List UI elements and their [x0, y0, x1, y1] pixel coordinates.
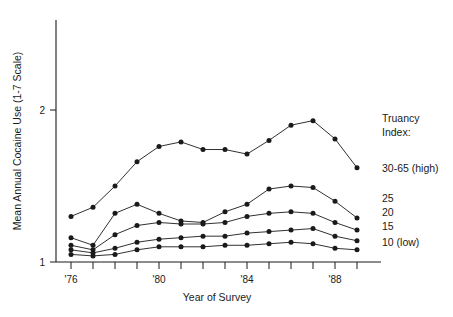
y-axis-tick-labels: 12 [39, 105, 45, 268]
data-point [245, 214, 250, 219]
data-point [223, 220, 228, 225]
data-point [179, 244, 184, 249]
data-point [157, 144, 162, 149]
data-point [245, 243, 250, 248]
legend-entry-15: 15 [382, 220, 394, 232]
figure-container: 12 '76'80'84'88 Mean Annual Cocaine Use … [0, 0, 453, 317]
series-30-65-high [69, 118, 360, 219]
data-point [289, 209, 294, 214]
x-axis-tick-labels: '76'80'84'88 [64, 274, 341, 285]
data-point [179, 222, 184, 227]
legend-entry-10-low: 10 (low) [382, 236, 419, 248]
data-point [311, 211, 316, 216]
data-point [179, 139, 184, 144]
data-point [201, 222, 206, 227]
data-point [113, 232, 118, 237]
data-point [223, 234, 228, 239]
data-point [245, 202, 250, 207]
x-tick-label-84: '84 [240, 274, 253, 285]
legend-title-line-2: Index: [382, 126, 411, 138]
data-point [157, 237, 162, 242]
cocaine-use-line-chart: 12 '76'80'84'88 Mean Annual Cocaine Use … [0, 0, 453, 317]
data-point [289, 240, 294, 245]
legend-entry-20: 20 [382, 206, 394, 218]
legend-entry-30-65-high: 30-65 (high) [382, 162, 439, 174]
data-point [267, 138, 272, 143]
data-point [267, 211, 272, 216]
data-point [245, 231, 250, 236]
data-point [113, 211, 118, 216]
data-point [333, 246, 338, 251]
data-point [135, 202, 140, 207]
y-tick-label-1: 1 [39, 257, 45, 268]
x-axis-ticks [71, 262, 357, 269]
data-point [289, 184, 294, 189]
data-point [201, 244, 206, 249]
data-point [135, 247, 140, 252]
data-series-layer [69, 118, 360, 258]
data-point [311, 185, 316, 190]
series-line [71, 121, 357, 217]
y-axis-ticks [50, 110, 56, 262]
data-point [135, 240, 140, 245]
data-point [355, 247, 360, 252]
data-point [69, 235, 74, 240]
data-point [333, 136, 338, 141]
legend: Truancy Index: 30-65 (high) 25 20 15 10 … [382, 112, 439, 248]
data-point [311, 241, 316, 246]
series-15 [69, 226, 360, 255]
data-point [91, 205, 96, 210]
x-tick-label-80: '80 [152, 274, 165, 285]
data-point [223, 243, 228, 248]
data-point [135, 223, 140, 228]
data-point [69, 214, 74, 219]
data-point [355, 165, 360, 170]
data-point [69, 243, 74, 248]
data-point [113, 246, 118, 251]
data-point [69, 247, 74, 252]
data-point [355, 238, 360, 243]
y-axis-title: Mean Annual Cocaine Use (1-7 Scale) [11, 52, 23, 231]
data-point [333, 220, 338, 225]
data-point [69, 252, 74, 257]
data-point [289, 123, 294, 128]
data-point [201, 234, 206, 239]
data-point [201, 147, 206, 152]
data-point [245, 152, 250, 157]
data-point [91, 243, 96, 248]
data-point [267, 187, 272, 192]
data-point [113, 252, 118, 257]
data-point [355, 215, 360, 220]
data-point [267, 241, 272, 246]
data-point [157, 220, 162, 225]
data-point [223, 209, 228, 214]
data-point [223, 147, 228, 152]
data-point [267, 229, 272, 234]
data-point [157, 211, 162, 216]
data-point [355, 228, 360, 233]
data-point [135, 159, 140, 164]
legend-title-line-1: Truancy [382, 112, 420, 124]
data-point [113, 184, 118, 189]
data-point [311, 226, 316, 231]
x-axis-title: Year of Survey [183, 291, 252, 303]
data-point [289, 228, 294, 233]
x-tick-label-88: '88 [328, 274, 341, 285]
data-point [333, 199, 338, 204]
legend-entry-25: 25 [382, 192, 394, 204]
data-point [311, 118, 316, 123]
series-25 [69, 184, 360, 248]
data-point [179, 235, 184, 240]
data-point [91, 253, 96, 258]
y-tick-label-2: 2 [39, 105, 45, 116]
data-point [157, 244, 162, 249]
data-point [333, 234, 338, 239]
x-tick-label-76: '76 [64, 274, 77, 285]
